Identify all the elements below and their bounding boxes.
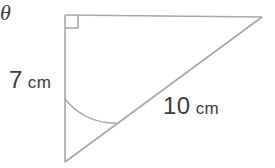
hypotenuse-label: 10cm (163, 94, 219, 118)
vertical-leg-unit: cm (28, 73, 51, 92)
horizontal-leg-line (65, 15, 262, 17)
vertical-leg-value: 7 (9, 66, 23, 93)
triangle-figure: 7cm 10cm θ (0, 0, 275, 168)
vertical-leg-label: 7cm (9, 68, 51, 92)
hypotenuse-unit: cm (196, 99, 219, 118)
hypotenuse-line (65, 17, 262, 162)
right-angle-marker (65, 15, 78, 28)
hypotenuse-value: 10 (163, 92, 191, 119)
angle-arc (65, 99, 116, 123)
